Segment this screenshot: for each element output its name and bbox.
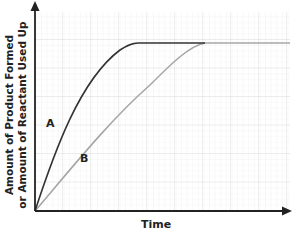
curve-b-label: B xyxy=(80,152,88,165)
line-chart: A B Time Amount of Product Formed or Amo… xyxy=(0,0,296,233)
x-axis-label: Time xyxy=(141,218,171,231)
curve-a-label: A xyxy=(46,117,55,130)
y-axis-label-line2: or Amount of Reactant Used Up xyxy=(16,21,28,209)
y-axis-arrow-icon xyxy=(31,1,40,11)
y-axis-label-line1: Amount of Product Formed xyxy=(3,35,15,195)
